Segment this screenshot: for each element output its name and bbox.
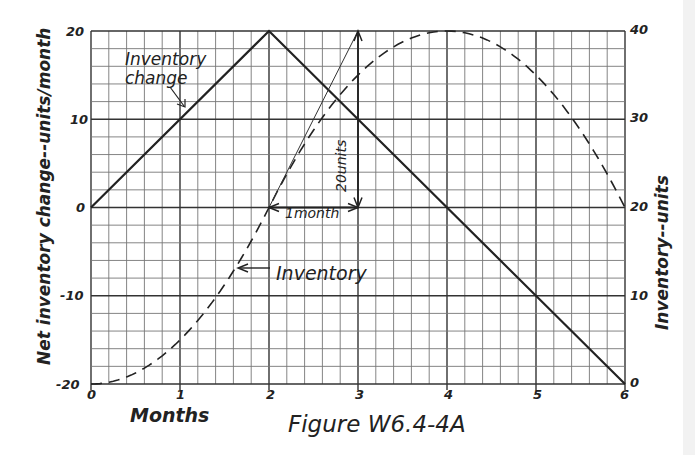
x-tick-3: 3	[355, 387, 364, 402]
y-left-tick-10: 10	[70, 112, 88, 127]
x-tick-4: 4	[443, 387, 453, 402]
annotation-20units: 20units	[333, 140, 349, 192]
y-left-axis-title: Net inventory change--units/month	[34, 28, 54, 365]
annotation-inventory-change-line2: change	[125, 68, 188, 88]
annotation-1month: 1month	[285, 205, 339, 221]
y-left-tick-neg10: -10	[60, 288, 84, 303]
y-left-tick-0: 0	[76, 200, 85, 215]
annotation-inventory-change-line1: Inventory	[125, 49, 207, 69]
x-tick-0: 0	[87, 387, 96, 402]
x-tick-1: 1	[176, 387, 185, 402]
y-right-tick-40: 40	[629, 22, 648, 37]
y-right-axis-title: Inventory--units	[652, 175, 672, 330]
y-left-tick-neg20: -20	[56, 377, 80, 392]
y-right-tick-10: 10	[630, 288, 648, 303]
x-axis-title: Months	[130, 404, 209, 426]
x-tick-5: 5	[533, 387, 542, 402]
figure-caption: Figure W6.4-4A	[288, 411, 466, 437]
y-left-tick-20: 20	[66, 24, 84, 39]
y-right-tick-20: 20	[630, 199, 648, 214]
y-right-tick-30: 30	[630, 110, 648, 125]
annotation-inventory: Inventory	[276, 262, 368, 284]
x-tick-6: 6	[620, 387, 629, 402]
y-right-tick-0: 0	[630, 375, 639, 390]
chart-figure: 20 10 0 -10 -20 40 30 20 10 0 0 1 2 3 4 …	[0, 0, 695, 455]
x-tick-2: 2	[266, 387, 275, 402]
